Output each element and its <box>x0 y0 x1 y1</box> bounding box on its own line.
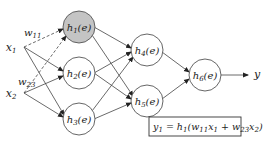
node-h4: h4(e) <box>131 34 163 66</box>
edge-x2-h3 <box>24 93 63 117</box>
edge-x1-h2 <box>24 47 63 71</box>
weight-w23: w23 <box>18 76 36 89</box>
node-h2: h2(e) <box>63 57 95 89</box>
edge-h1-h4 <box>94 27 131 48</box>
node-h6: h6(e) <box>189 59 221 91</box>
neural-network-diagram: h1(e) h2(e) h3(e) h4(e) h5(e) h6(e) x1 x… <box>0 0 270 150</box>
weight-w11: w11 <box>24 27 41 40</box>
edge-h5-h6 <box>162 79 189 99</box>
edge-h3-h5 <box>94 103 131 119</box>
edge-h4-h6 <box>162 52 189 72</box>
edge-h2-h5 <box>94 73 131 99</box>
node-h3: h3(e) <box>63 103 95 135</box>
hidden-edges-1 <box>92 27 133 119</box>
input-x2: x2 <box>6 87 17 101</box>
output-y: y <box>253 68 261 81</box>
node-h5: h5(e) <box>131 85 163 117</box>
node-h1: h1(e) <box>63 11 95 43</box>
input-edges <box>24 29 66 117</box>
equation-box: y1 = h1(w11x1 + w23x2) <box>149 117 263 136</box>
edge-h2-h4 <box>94 52 131 73</box>
input-x1: x1 <box>6 41 17 55</box>
